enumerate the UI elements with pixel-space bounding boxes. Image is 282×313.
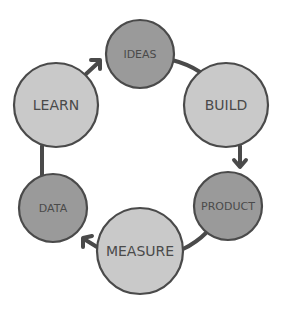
node-product-label: PRODUCT — [201, 200, 255, 213]
node-build-label: BUILD — [205, 97, 248, 113]
node-measure-label: MEASURE — [106, 243, 174, 259]
connector-ideas-to-build — [172, 60, 200, 72]
node-ideas-label: IDEAS — [123, 48, 156, 61]
connector-product-to-measure — [183, 232, 207, 249]
node-measure: MEASURE — [97, 208, 183, 294]
node-build: BUILD — [184, 63, 268, 147]
node-ideas: IDEAS — [106, 20, 174, 88]
arrow-learn-to-ideas — [86, 60, 100, 74]
node-product: PRODUCT — [194, 172, 262, 240]
arrow-build-to-product — [234, 146, 246, 167]
node-data-label: DATA — [39, 202, 68, 215]
node-learn-label: LEARN — [33, 97, 79, 113]
node-data: DATA — [19, 174, 87, 242]
node-learn: LEARN — [14, 63, 98, 147]
build-measure-learn-cycle-diagram: IDEAS BUILD PRODUCT MEASURE DATA LEARN — [0, 0, 282, 313]
arrow-measure-to-data — [83, 236, 97, 247]
